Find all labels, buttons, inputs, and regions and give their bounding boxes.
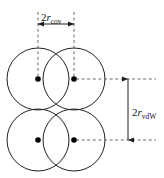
molecular-radii-figure: 2rcov 2rvdW <box>0 0 164 178</box>
nucleus-dot-top-left <box>35 76 41 82</box>
nucleus-dot-bottom-left <box>35 137 41 143</box>
vdw-radius-label: 2rvdW <box>132 103 156 119</box>
vdw-label-subscript: vdW <box>142 112 157 121</box>
nucleus-dot-top-right <box>71 76 77 82</box>
covalent-label-subscript: cov <box>51 17 62 26</box>
radii-diagram-svg <box>0 0 164 178</box>
atom-circles-group <box>7 48 105 171</box>
nucleus-dot-bottom-right <box>71 137 77 143</box>
covalent-radius-label: 2rcov <box>41 8 62 24</box>
